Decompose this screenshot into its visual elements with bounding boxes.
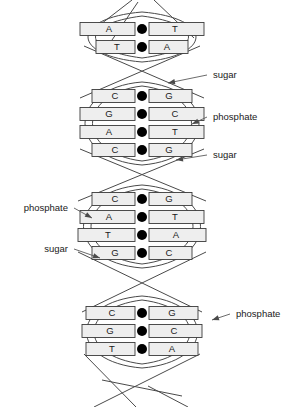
backbone-strand-right-1 (142, 12, 196, 62)
annotation-label-text: phosphate (213, 111, 257, 122)
annotation-label-text: phosphate (236, 308, 280, 319)
base-letter-right: C (171, 325, 178, 336)
dna-diagram-canvas: ATTACGGCATCGCGATTAGCCGGCTA sugarphosphat… (0, 0, 284, 407)
backbone-strand-left-1 (88, 12, 142, 62)
base-letter-right: G (165, 90, 172, 101)
base-letter-right: A (164, 41, 171, 52)
base-pair-rung: AT (80, 211, 204, 224)
hydrogen-bond-node (137, 308, 147, 318)
base-pair-rung: AT (80, 23, 204, 36)
hydrogen-bond-node (137, 145, 147, 155)
base-letter-left: C (112, 90, 119, 101)
base-letter-right: T (172, 23, 178, 34)
annotation-phosphate-bot-right: phosphate (212, 308, 280, 321)
base-letter-left: G (106, 325, 113, 336)
strand-tail-bottom-4 (102, 380, 182, 396)
base-letter-right: A (169, 343, 176, 354)
base-letter-left: T (114, 41, 120, 52)
base-letter-left: G (111, 247, 118, 258)
base-pair-rung: AT (80, 126, 204, 139)
annotation-label-text: sugar (213, 69, 237, 80)
base-letter-left: G (105, 108, 112, 119)
base-letter-left: A (106, 126, 113, 137)
base-letter-right: G (168, 307, 175, 318)
dna-double-helix-figure: ATTACGGCATCGCGATTAGCCGGCTA sugarphosphat… (0, 0, 284, 407)
hydrogen-bond-node (137, 109, 147, 119)
hydrogen-bond-node (137, 42, 147, 52)
annotation-sugar-top-right: sugar (168, 69, 237, 85)
base-letter-left: C (109, 307, 116, 318)
backbone-crossover-a-3 (78, 252, 202, 312)
hydrogen-bond-node (137, 91, 147, 101)
base-letter-right: G (165, 193, 172, 204)
base-letter-left: C (112, 144, 119, 155)
base-letter-left: A (106, 211, 113, 222)
annotation-label-text: phosphate (24, 202, 68, 213)
base-letter-right: C (172, 108, 179, 119)
base-letter-right: T (172, 126, 178, 137)
base-pair-rung: GC (82, 325, 202, 338)
backbone-crossover-b-3 (82, 252, 206, 312)
base-pair-rung: TA (96, 41, 188, 54)
base-pair-rung: CG (92, 193, 192, 206)
base-letter-right: T (172, 211, 178, 222)
base-letter-right: G (165, 144, 172, 155)
base-letter-left: A (106, 23, 113, 34)
base-letter-right: A (173, 229, 180, 240)
base-pair-rung: GC (92, 247, 192, 260)
base-pair-rung: GC (80, 108, 204, 121)
hydrogen-bond-node (137, 24, 147, 34)
hydrogen-bond-node (137, 230, 147, 240)
base-letter-left: C (112, 193, 119, 204)
hydrogen-bond-node (137, 248, 147, 258)
strand-tail-bottom-3 (148, 386, 188, 407)
leader-arrowhead (176, 156, 183, 161)
base-pair-rung: TA (78, 229, 206, 242)
hydrogen-bond-node (137, 344, 147, 354)
base-pair-rung: CG (92, 90, 192, 103)
hydrogen-bond-node (137, 194, 147, 204)
base-pair-rung: CG (92, 144, 192, 157)
leader-arrowhead (212, 315, 219, 320)
base-letter-left: T (105, 229, 111, 240)
hydrogen-bond-node (137, 326, 147, 336)
hydrogen-bond-node (137, 127, 147, 137)
base-letter-left: T (109, 343, 115, 354)
base-pair-rung: TA (86, 343, 198, 356)
base-letter-right: C (166, 247, 173, 258)
annotation-label-text: sugar (213, 149, 237, 160)
hydrogen-bond-node (137, 212, 147, 222)
annotation-label-text: sugar (44, 243, 68, 254)
base-pair-rung: CG (86, 307, 198, 320)
